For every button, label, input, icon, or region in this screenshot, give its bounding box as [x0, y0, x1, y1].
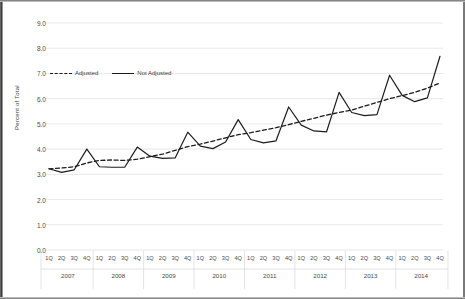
x-tick-label: 4Q: [83, 255, 90, 261]
x-tick-label: 3Q: [70, 255, 77, 261]
legend-item-adjusted: Adjusted: [50, 70, 98, 76]
x-tick-label: 2Q: [310, 255, 317, 261]
dashed-line-icon: [50, 73, 72, 74]
x-tick-label: 2Q: [58, 255, 65, 261]
x-tick-label: 1Q: [348, 255, 355, 261]
x-tick-label: 1Q: [146, 255, 153, 261]
x-year-label: 2012: [313, 272, 327, 279]
x-year-label: 2011: [263, 272, 276, 279]
x-year-label: 2010: [212, 272, 226, 279]
chart-legend: Adjusted Not Adjusted: [50, 70, 171, 76]
x-tick-label: 3Q: [272, 255, 279, 261]
x-tick-label: 2Q: [361, 255, 368, 261]
x-year-label: 2008: [111, 272, 125, 279]
y-tick-label: 5.0: [24, 120, 46, 127]
y-tick-label: 7.0: [24, 70, 46, 77]
x-tick-label: 2Q: [159, 255, 166, 261]
x-tick-label: 4Q: [386, 255, 393, 261]
x-year-label: 2007: [61, 272, 75, 279]
legend-label-not-adjusted: Not Adjusted: [137, 70, 171, 76]
y-tick-label: 6.0: [24, 95, 46, 102]
x-tick-label: 4Q: [184, 255, 191, 261]
y-tick-label: 8.0: [24, 45, 46, 52]
x-tick-label: 1Q: [298, 255, 305, 261]
x-tick-label: 3Q: [222, 255, 229, 261]
x-year-label: 2009: [162, 272, 176, 279]
y-tick-label: 0.0: [24, 247, 46, 254]
y-tick-label: 2.0: [24, 196, 46, 203]
x-tick-label: 4Q: [234, 255, 241, 261]
x-tick-label: 2Q: [108, 255, 115, 261]
x-year-label: 2014: [414, 272, 428, 279]
y-tick-label: 1.0: [24, 221, 46, 228]
x-tick-label: 4Q: [335, 255, 342, 261]
legend-item-not-adjusted: Not Adjusted: [112, 70, 171, 76]
x-tick-label: 2Q: [260, 255, 267, 261]
y-axis-ticks: 0.01.02.03.04.05.06.07.08.09.0: [20, 0, 46, 299]
x-tick-label: 1Q: [398, 255, 405, 261]
plot-area: Percent of Total 0.01.02.03.04.05.06.07.…: [0, 0, 465, 299]
y-tick-label: 9.0: [24, 20, 46, 27]
x-tick-label: 3Q: [121, 255, 128, 261]
x-tick-label: 1Q: [197, 255, 204, 261]
x-tick-label: 4Q: [134, 255, 141, 261]
series-line-adjusted: [49, 83, 440, 169]
x-tick-label: 1Q: [247, 255, 254, 261]
x-tick-label: 1Q: [45, 255, 52, 261]
x-tick-label: 1Q: [96, 255, 103, 261]
x-tick-label: 2Q: [209, 255, 216, 261]
solid-line-icon: [112, 73, 134, 74]
x-tick-label: 3Q: [171, 255, 178, 261]
chart-figure: Percent of Total 0.01.02.03.04.05.06.07.…: [0, 0, 465, 299]
x-tick-label: 3Q: [323, 255, 330, 261]
x-year-label: 2013: [364, 272, 378, 279]
x-tick-label: 3Q: [424, 255, 431, 261]
x-tick-label: 4Q: [285, 255, 292, 261]
y-tick-label: 4.0: [24, 146, 46, 153]
y-tick-label: 3.0: [24, 171, 46, 178]
x-tick-label: 2Q: [411, 255, 418, 261]
x-tick-label: 4Q: [436, 255, 443, 261]
x-tick-label: 3Q: [373, 255, 380, 261]
legend-label-adjusted: Adjusted: [75, 70, 98, 76]
